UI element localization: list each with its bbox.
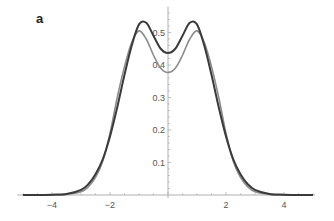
y-tick-label: 0.1 — [152, 158, 165, 168]
x-tick-label: 2 — [223, 200, 228, 210]
x-tick-label: −2 — [105, 200, 115, 210]
y-tick-label: 0.3 — [152, 93, 165, 103]
x-tick-label: −4 — [47, 200, 57, 210]
line-chart: −4−2240.10.20.30.40.5 — [0, 0, 334, 221]
x-tick-label: 4 — [281, 200, 286, 210]
axes — [17, 7, 315, 199]
y-tick-label: 0.2 — [152, 125, 165, 135]
